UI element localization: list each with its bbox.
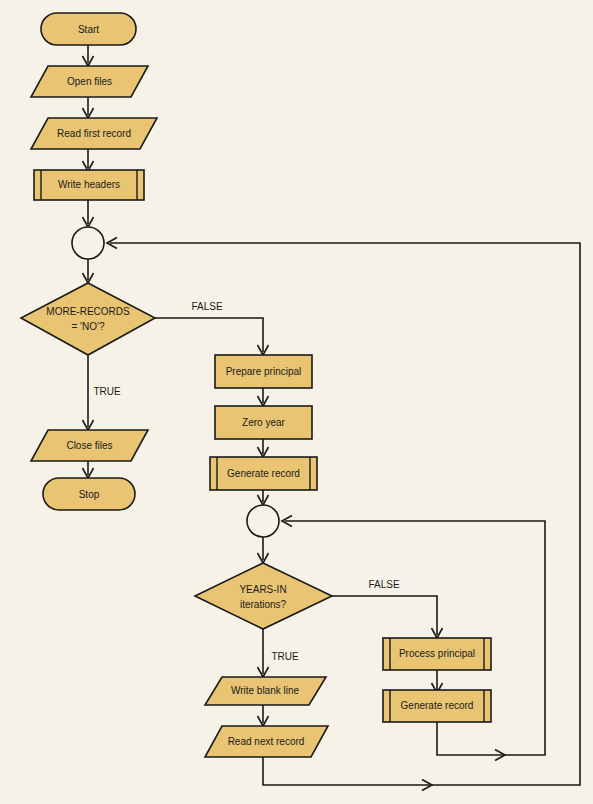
edge-zero-year-to-generate-record-1 — [258, 439, 269, 457]
edge-connector-1-to-more-records — [83, 259, 94, 283]
node-generate-record-2[interactable]: Generate record — [383, 690, 491, 722]
edge-label-more-records-false: FALSE — [191, 301, 222, 312]
node-years-in-label-line2: iterations? — [240, 599, 287, 610]
node-generate-record-1[interactable]: Generate record — [210, 457, 317, 490]
edge-start-to-open-files — [83, 45, 94, 66]
node-read-next-record-label: Read next record — [228, 736, 305, 747]
node-more-records-label-line1: MORE-RECORDS — [46, 306, 130, 317]
node-write-blank-line-label: Write blank line — [231, 685, 300, 696]
edge-prepare-principal-to-zero-year — [258, 388, 269, 406]
edge-more-records-false — [155, 318, 269, 355]
node-zero-year-label: Zero year — [242, 417, 285, 428]
node-prepare-principal[interactable]: Prepare principal — [215, 355, 312, 388]
node-more-records-label-line2: = 'NO'? — [72, 321, 105, 332]
edge-read-next-record-loop-to-connector-1 — [107, 238, 580, 791]
edge-label-years-in-true: TRUE — [271, 651, 299, 662]
edge-write-blank-line-to-read-next-record — [258, 705, 269, 726]
edge-label-more-records-true: TRUE — [93, 386, 121, 397]
node-start[interactable]: Start — [41, 13, 136, 45]
node-read-first-record[interactable]: Read first record — [31, 118, 157, 149]
edge-years-in-true — [258, 629, 269, 677]
node-open-files-label: Open files — [67, 76, 112, 87]
node-years-in-label-line1: YEARS-IN — [239, 584, 286, 595]
node-open-files[interactable]: Open files — [31, 66, 148, 97]
node-stop-label: Stop — [79, 489, 100, 500]
edge-connector-2-to-years-in — [258, 537, 269, 563]
edge-read-first-record-to-write-headers — [83, 149, 94, 171]
edge-generate-record-1-to-connector-2 — [258, 490, 269, 505]
node-zero-year[interactable]: Zero year — [215, 406, 312, 439]
edge-more-records-true — [83, 355, 94, 430]
node-read-next-record[interactable]: Read next record — [205, 726, 328, 757]
node-prepare-principal-label: Prepare principal — [226, 366, 302, 377]
node-start-label: Start — [78, 24, 99, 35]
edge-years-in-false — [332, 596, 443, 638]
node-generate-record-1-label: Generate record — [227, 468, 300, 479]
edge-open-files-to-read-first-record — [83, 97, 94, 118]
edge-write-headers-to-connector-1 — [83, 200, 94, 227]
node-years-in-decision[interactable]: YEARS-IN iterations? — [195, 563, 332, 629]
edge-close-files-to-stop — [83, 461, 94, 478]
node-write-headers[interactable]: Write headers — [34, 170, 144, 200]
node-process-principal-label: Process principal — [399, 648, 475, 659]
node-close-files[interactable]: Close files — [31, 430, 148, 461]
flowchart-canvas: Start Open files Read first record Write… — [0, 0, 593, 804]
node-generate-record-2-label: Generate record — [401, 700, 474, 711]
node-more-records-decision[interactable]: MORE-RECORDS = 'NO'? — [21, 283, 155, 355]
node-close-files-label: Close files — [66, 440, 112, 451]
edge-label-years-in-false: FALSE — [368, 579, 399, 590]
node-connector-2[interactable] — [247, 505, 279, 537]
node-stop[interactable]: Stop — [43, 478, 135, 510]
node-read-first-record-label: Read first record — [57, 128, 131, 139]
node-write-headers-label: Write headers — [58, 179, 120, 190]
node-write-blank-line[interactable]: Write blank line — [205, 677, 326, 705]
node-connector-1[interactable] — [72, 227, 104, 259]
flowchart-svg: Start Open files Read first record Write… — [0, 0, 593, 804]
node-process-principal[interactable]: Process principal — [383, 638, 491, 670]
